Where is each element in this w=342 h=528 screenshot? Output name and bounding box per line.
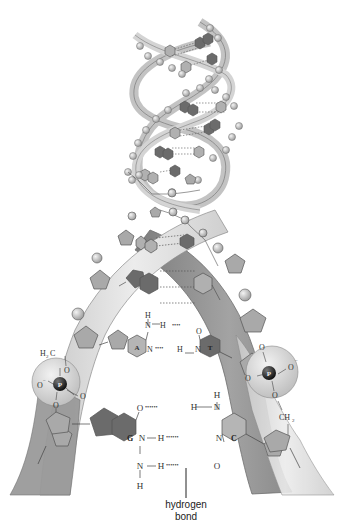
atom-o: O: [245, 374, 251, 383]
dna-diagram: H N H •••• O A N •••• H N T P H 2 C O O …: [0, 0, 342, 528]
atom-h: H: [177, 345, 183, 354]
base-label-g: G: [127, 434, 133, 443]
helix-upper: [134, 22, 232, 210]
atom-o: O: [64, 366, 70, 375]
atom-o: O: [53, 401, 59, 410]
atom-o: O: [137, 403, 144, 413]
base-label-t: T: [208, 344, 213, 352]
atom-n: N: [214, 402, 221, 412]
hydrogen-bond-dots: ••••••: [166, 434, 179, 440]
atom-h: H: [214, 390, 221, 400]
atom-h: H: [145, 311, 151, 320]
atom-n: N: [137, 461, 144, 471]
hydrogen-bond-dots: ••••: [172, 322, 180, 328]
atom-n: N: [216, 433, 223, 443]
subscript-2: 2: [292, 418, 295, 423]
atom-h: H: [137, 481, 144, 491]
charge-minus: −: [295, 358, 298, 363]
atom-o: O: [259, 343, 265, 352]
atom-o: O: [288, 363, 294, 372]
atom-n: N: [139, 433, 146, 443]
atom-o: O: [196, 327, 202, 336]
atom-p: P: [267, 370, 272, 378]
hydrogen-bond-dots: ••••: [155, 345, 163, 351]
atom-ch2: CH: [279, 413, 290, 422]
atom-p: P: [58, 381, 63, 389]
charge-minus: −: [43, 378, 46, 383]
hydrogen-bond-dots: ••••••: [166, 462, 179, 468]
atom-o: O: [214, 461, 221, 471]
atom-o: O: [80, 392, 86, 401]
hydrogen-bond-dots: ••••••: [145, 404, 158, 410]
atom-n: N: [145, 321, 151, 330]
atom-h: H: [158, 433, 165, 443]
atom-h: H: [158, 461, 165, 471]
atom-n: N: [147, 345, 153, 354]
base-label-c: C: [231, 434, 237, 443]
atom-n: N: [195, 345, 201, 354]
callout-label-line2: bond: [175, 511, 197, 522]
subscript-2: 2: [46, 354, 49, 359]
callout-label-line1: hydrogen: [165, 499, 207, 510]
hydrogen-bond-callout: hydrogen bond: [165, 468, 207, 522]
atom-c: C: [50, 349, 55, 358]
atom-h: H: [160, 321, 166, 330]
atom-h: H: [191, 402, 198, 412]
base-label-a: A: [134, 344, 139, 352]
atom-o: O: [272, 391, 278, 400]
